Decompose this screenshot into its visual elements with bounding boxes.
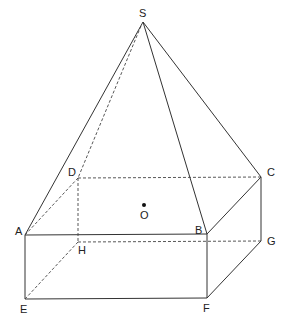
edge-BC (207, 177, 261, 234)
label-F: F (203, 302, 210, 314)
edge-SC (143, 22, 261, 177)
label-O: O (140, 209, 149, 221)
edge-DC (78, 177, 261, 178)
label-D: D (68, 166, 76, 178)
edge-FG (207, 241, 261, 298)
label-A: A (15, 225, 23, 237)
edge-AB (25, 234, 207, 235)
point-O (142, 203, 146, 207)
label-E: E (20, 303, 27, 315)
edge-SD (78, 26, 141, 178)
edge-HG (78, 241, 261, 242)
pyramid-prism-diagram: S A B C D E F G H O (0, 0, 291, 324)
label-B: B (195, 224, 202, 236)
label-C: C (267, 166, 275, 178)
label-G: G (267, 235, 276, 247)
edge-SA (25, 22, 143, 235)
edge-EF (25, 298, 207, 299)
edge-SB (143, 22, 207, 234)
label-H: H (78, 244, 86, 256)
edge-HE (25, 242, 78, 299)
label-S: S (139, 7, 146, 19)
